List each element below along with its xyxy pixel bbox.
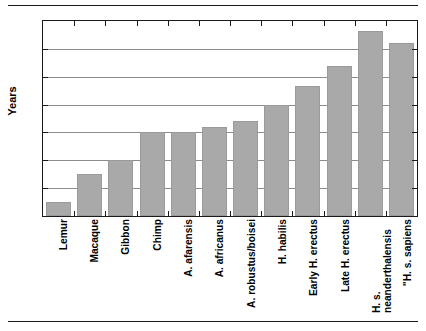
x-label-slot: A. robustus/boisei: [230, 217, 261, 315]
x-tick-mark: [137, 211, 138, 216]
x-tick-mark: [199, 211, 200, 216]
x-label-slot: Lemur: [42, 217, 73, 315]
x-tick-mark-top: [137, 21, 138, 26]
plot-area: 01234567: [42, 20, 418, 217]
x-tick-mark: [355, 211, 356, 216]
y-tick-mark: [43, 49, 48, 50]
y-tick-mark: [43, 188, 48, 189]
x-tick-mark-top: [230, 21, 231, 26]
x-tick-label: Early H. erectus: [308, 219, 319, 296]
y-tick-mark-right: [412, 132, 417, 133]
x-tick-label: A. africanus: [214, 219, 225, 277]
y-tick-mark-right: [412, 77, 417, 78]
x-tick-mark: [168, 211, 169, 216]
x-tick-mark: [230, 211, 231, 216]
y-axis-title: Years: [6, 66, 18, 136]
x-label-slot: A. africanus: [199, 217, 230, 315]
x-tick-mark-top: [386, 21, 387, 26]
y-tick-mark: [43, 132, 48, 133]
x-tick-label: A. robustus/boisei: [246, 219, 257, 308]
y-tick-mark-right: [412, 105, 417, 106]
axis-ticks: 01234567: [43, 21, 417, 216]
x-tick-label: H. habilis: [277, 219, 288, 264]
x-label-slot: "H. s. sapiens: [387, 217, 418, 315]
x-tick-mark: [292, 211, 293, 216]
x-tick-mark: [74, 211, 75, 216]
x-label-slot: Chimp: [136, 217, 167, 315]
x-tick-mark-top: [261, 21, 262, 26]
x-label-slot: Early H. erectus: [293, 217, 324, 315]
x-tick-mark-top: [324, 21, 325, 26]
x-tick-label: Macaque: [89, 219, 100, 263]
x-tick-label: Lemur: [58, 219, 69, 250]
x-axis-labels: LemurMacaqueGibbonChimpA. afarensisA. af…: [42, 217, 418, 315]
y-tick-mark-right: [412, 49, 417, 50]
y-tick-mark-right: [412, 188, 417, 189]
figure: Years 01234567 LemurMacaqueGibbonChimpA.…: [0, 0, 426, 331]
x-tick-mark: [386, 211, 387, 216]
x-tick-mark-top: [292, 21, 293, 26]
bottom-divider-rule: [8, 321, 418, 322]
x-tick-mark-top: [168, 21, 169, 26]
y-tick-mark: [43, 105, 48, 106]
x-label-slot: Late H. erectus: [324, 217, 355, 315]
x-tick-label: A. afarensis: [183, 219, 194, 277]
x-tick-mark: [324, 211, 325, 216]
y-tick-mark: [43, 77, 48, 78]
x-label-slot: Macaque: [73, 217, 104, 315]
top-divider-rule: [8, 5, 418, 6]
x-label-slot: H. habilis: [261, 217, 292, 315]
y-tick-mark: [43, 160, 48, 161]
x-tick-mark-top: [199, 21, 200, 26]
x-tick-label: Gibbon: [120, 219, 131, 255]
x-tick-label: "H. s. sapiens: [402, 219, 413, 286]
x-label-slot: H. s. neanderthalensis: [355, 217, 386, 315]
x-tick-mark-top: [74, 21, 75, 26]
x-label-slot: Gibbon: [105, 217, 136, 315]
x-label-slot: A. afarensis: [167, 217, 198, 315]
x-tick-mark: [105, 211, 106, 216]
x-tick-mark-top: [105, 21, 106, 26]
x-tick-mark-top: [355, 21, 356, 26]
x-tick-label: Chimp: [152, 219, 163, 251]
x-tick-label: Late H. erectus: [340, 219, 351, 292]
x-tick-mark: [261, 211, 262, 216]
y-tick-mark-right: [412, 160, 417, 161]
